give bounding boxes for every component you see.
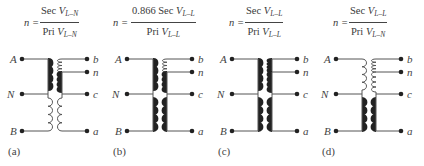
terminal-dot-a: [399, 129, 404, 134]
terminal-label-c: c: [407, 88, 412, 100]
terminal-label-b: b: [407, 53, 413, 65]
terminal-dot-B: [334, 129, 339, 134]
transformer-schematic: ANBbnca: [0, 0, 424, 166]
primary-upper-winding: [362, 59, 367, 90]
secondary-middle-winding: [372, 72, 377, 92]
terminal-dot-c: [399, 92, 404, 97]
secondary-lower-winding: [372, 98, 377, 131]
terminal-label-N: N: [320, 88, 329, 100]
terminal-label-n: n: [407, 66, 413, 78]
terminal-label-B: B: [324, 125, 331, 137]
terminal-dot-A: [334, 57, 339, 62]
terminal-dot-N: [334, 92, 339, 97]
terminal-dot-n: [399, 70, 404, 75]
secondary-upper-winding: [372, 59, 377, 72]
terminal-label-A: A: [323, 53, 331, 65]
panel-d: n =Sec VL–LPri VL–NANBbnca(d): [0, 0, 424, 166]
terminal-label-a: a: [407, 125, 413, 137]
terminal-dot-b: [399, 57, 404, 62]
panel-caption: (d): [322, 145, 335, 157]
primary-lower-winding: [362, 98, 367, 131]
